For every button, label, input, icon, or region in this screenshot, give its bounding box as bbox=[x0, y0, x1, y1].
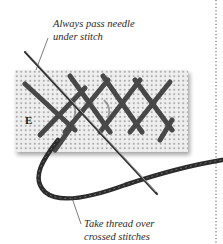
annotation-line: Take thread over bbox=[84, 218, 154, 231]
annotation-needle-under-stitch: Always pass needle under stitch bbox=[53, 18, 135, 43]
leader-line-bottom bbox=[72, 198, 81, 224]
annotation-line: under stitch bbox=[53, 31, 135, 44]
illustration: E Always pass needle under stitch Take t… bbox=[0, 0, 223, 244]
step-letter: E bbox=[25, 114, 32, 126]
annotation-line: Always pass needle bbox=[53, 18, 135, 31]
annotation-line: crossed stitches bbox=[84, 231, 154, 244]
leader-line-top bbox=[36, 38, 48, 70]
annotation-thread-over-stitches: Take thread over crossed stitches bbox=[84, 218, 154, 243]
